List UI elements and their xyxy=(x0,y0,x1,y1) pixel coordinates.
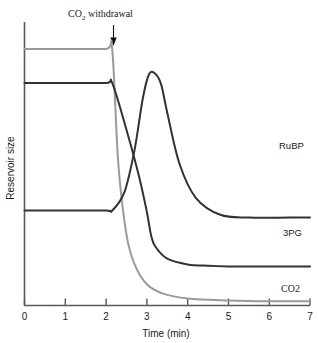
y-axis-title: Reservoir size xyxy=(5,136,16,200)
x-tick-label: 7 xyxy=(307,311,313,322)
series-line-rubp xyxy=(25,79,311,266)
data-series-group xyxy=(25,40,311,301)
chart-container: CO2 withdrawal 0 1 2 3 4 5 xyxy=(0,0,318,343)
co2-withdrawal-annotation: CO2 withdrawal xyxy=(68,8,133,46)
x-tick-label: 6 xyxy=(267,311,273,322)
axes xyxy=(24,22,310,306)
series-line-3pg xyxy=(25,72,311,218)
co2-withdrawal-prefix: CO xyxy=(68,8,82,19)
reservoir-size-chart: CO2 withdrawal 0 1 2 3 4 5 xyxy=(0,0,318,343)
series-label-3pg: 3PG xyxy=(283,227,302,238)
x-tick-label: 0 xyxy=(22,311,28,322)
x-axis-title: Time (min) xyxy=(142,328,189,339)
co2-withdrawal-suffix: withdrawal xyxy=(85,8,133,19)
series-label-co2: CO2 xyxy=(281,283,300,294)
x-tick-label: 5 xyxy=(226,311,232,322)
series-label-rubp: RuBP xyxy=(279,140,304,151)
x-tick-label: 2 xyxy=(103,311,109,322)
x-tick-label: 1 xyxy=(63,311,69,322)
series-line-co2 xyxy=(25,40,311,301)
x-tick-label: 3 xyxy=(144,311,150,322)
co2-withdrawal-label: CO2 withdrawal xyxy=(68,8,133,22)
x-axis-tick-labels: 0 1 2 3 4 5 6 7 xyxy=(22,311,314,322)
x-tick-label: 4 xyxy=(185,311,191,322)
